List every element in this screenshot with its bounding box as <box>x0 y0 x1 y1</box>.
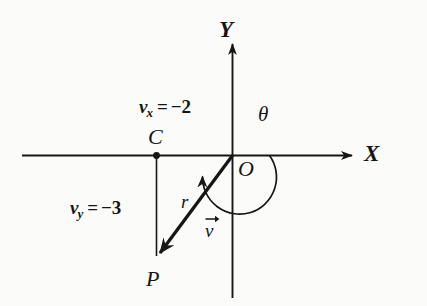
x-component-label: vx=−2 <box>139 97 191 116</box>
x-component-operator: = <box>154 96 171 117</box>
x-component-subscript: x <box>146 105 153 120</box>
y-component-label: vy=−3 <box>70 198 121 217</box>
y-axis-label: Y <box>219 18 233 41</box>
magnitude-r-label: r <box>181 192 188 211</box>
y-component-subscript: y <box>77 206 83 221</box>
point-c-marker <box>153 152 160 159</box>
vector-v-symbol: v <box>205 220 213 241</box>
figure-canvas: Y X O C P θ r v vx=−2 vy=−3 <box>0 0 427 306</box>
angle-theta-label: θ <box>258 104 268 125</box>
x-axis-label: X <box>364 142 379 165</box>
x-component-value: −2 <box>171 96 191 117</box>
y-component-value: −3 <box>101 197 121 218</box>
point-c-label: C <box>148 126 163 148</box>
vector-v-label: v <box>205 221 427 240</box>
y-component-operator: = <box>84 197 101 218</box>
point-p-label: P <box>146 268 159 290</box>
diagram-graphics <box>0 0 427 306</box>
origin-label: O <box>238 158 254 180</box>
